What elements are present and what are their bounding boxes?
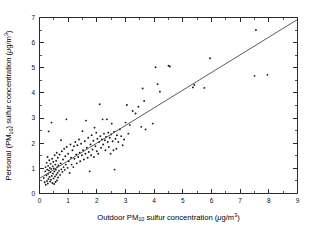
data-point: [74, 158, 76, 160]
x-tick-label: 3: [124, 197, 128, 204]
regression-line: [40, 20, 298, 179]
data-point: [142, 87, 144, 89]
data-point: [107, 141, 109, 143]
data-point: [111, 123, 113, 125]
data-point: [169, 66, 171, 68]
data-point: [159, 91, 161, 93]
data-point: [44, 170, 46, 172]
data-point: [99, 103, 101, 105]
data-point: [49, 180, 51, 182]
data-point: [54, 154, 56, 156]
data-point: [64, 169, 66, 171]
data-point: [51, 175, 53, 177]
data-point: [65, 164, 67, 166]
y-axis-ticks: [40, 18, 298, 194]
y-tick-label: 0: [31, 190, 35, 197]
data-point: [95, 132, 97, 134]
data-point: [58, 170, 60, 172]
data-point: [129, 124, 131, 126]
data-point: [155, 66, 157, 68]
data-point: [94, 127, 96, 129]
data-point: [67, 167, 69, 169]
data-point: [106, 118, 108, 120]
data-point: [97, 153, 99, 155]
data-point: [127, 133, 129, 135]
y-axis-title-text: Personal (PM10) sulfur concentration (μg…: [3, 30, 13, 180]
data-point: [79, 160, 81, 162]
data-point: [54, 175, 56, 177]
data-point: [123, 138, 125, 140]
x-tick-label: 1: [66, 197, 70, 204]
data-point: [96, 150, 98, 152]
data-point: [108, 146, 110, 148]
data-point: [110, 153, 112, 155]
data-point: [43, 177, 45, 179]
data-point: [120, 135, 122, 137]
data-point: [67, 153, 69, 155]
data-point: [62, 159, 64, 161]
x-tick-label: 0: [38, 197, 42, 204]
data-point: [72, 149, 74, 151]
data-point: [76, 144, 78, 146]
data-point: [57, 157, 59, 159]
data-point: [52, 172, 54, 174]
data-point: [254, 75, 256, 77]
data-point: [60, 168, 62, 170]
data-point: [84, 153, 86, 155]
data-point: [74, 141, 76, 143]
data-point: [73, 145, 75, 147]
data-point: [209, 57, 211, 59]
x-tick-label: 5: [181, 197, 185, 204]
data-point: [87, 137, 89, 139]
data-point: [143, 100, 145, 102]
data-point: [51, 122, 53, 124]
data-point: [51, 182, 53, 184]
data-point: [203, 87, 205, 89]
data-point: [91, 134, 93, 136]
data-point: [50, 163, 52, 165]
x-axis-title: Outdoor PM10 sulfur concentration (μg/m3…: [97, 212, 240, 222]
data-point: [57, 172, 59, 174]
data-point: [66, 146, 68, 148]
data-point: [192, 86, 194, 88]
data-point: [135, 113, 137, 115]
y-tick-label: 7: [31, 14, 35, 21]
data-point: [193, 84, 195, 86]
data-point: [104, 149, 106, 151]
data-point: [46, 169, 48, 171]
data-point: [113, 149, 115, 151]
data-point: [116, 134, 118, 136]
data-point: [145, 128, 147, 130]
data-point: [52, 165, 54, 167]
data-point: [63, 166, 65, 168]
data-point: [45, 184, 47, 186]
data-point: [122, 144, 124, 146]
data-point: [57, 176, 59, 178]
figure-container: 0123456789 01234567 Outdoor PM10 sulfur …: [0, 0, 316, 233]
data-point: [59, 174, 61, 176]
data-point: [152, 123, 154, 125]
x-tick-label: 9: [296, 197, 300, 204]
data-point: [56, 179, 58, 181]
data-point: [92, 149, 94, 151]
data-point: [70, 144, 72, 146]
data-point: [104, 139, 106, 141]
data-point: [115, 138, 117, 140]
data-point: [114, 169, 116, 171]
data-point: [76, 162, 78, 164]
data-point: [54, 164, 56, 166]
data-point: [63, 148, 65, 150]
data-point: [46, 162, 48, 164]
data-point: [53, 170, 55, 172]
scatter-plot: 0123456789 01234567 Outdoor PM10 sulfur …: [0, 0, 316, 233]
data-point: [50, 168, 52, 170]
x-tick-label: 7: [238, 197, 242, 204]
y-tick-label: 1: [31, 165, 35, 172]
data-point: [59, 154, 61, 156]
data-point: [48, 159, 50, 161]
data-point: [44, 181, 46, 183]
data-point: [96, 138, 98, 140]
data-point: [109, 137, 111, 139]
data-point: [47, 182, 49, 184]
x-tick-label: 2: [95, 197, 99, 204]
